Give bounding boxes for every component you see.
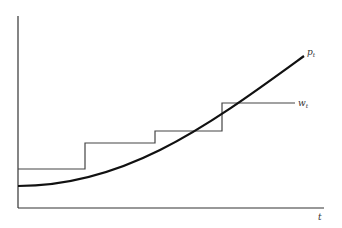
price-curve — [18, 56, 304, 186]
wage-step-label: wt — [298, 98, 309, 109]
diagram-canvas: pt wt t — [0, 0, 342, 228]
x-axis-label: t — [318, 212, 322, 222]
wage-step-line — [18, 103, 295, 169]
price-curve-label: pt — [307, 47, 316, 58]
